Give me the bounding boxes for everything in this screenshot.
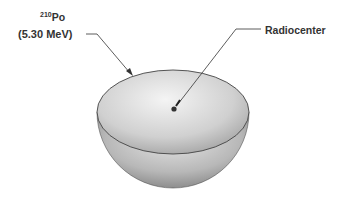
isotope-label: 210Po [40,11,65,23]
energy-label: (5.30 MeV) [18,28,72,40]
radiocenter-label: Radiocenter [265,24,326,36]
radiocenter-dot [171,106,176,111]
hemisphere-top-surface [97,70,249,154]
source-leader-line [86,34,130,73]
